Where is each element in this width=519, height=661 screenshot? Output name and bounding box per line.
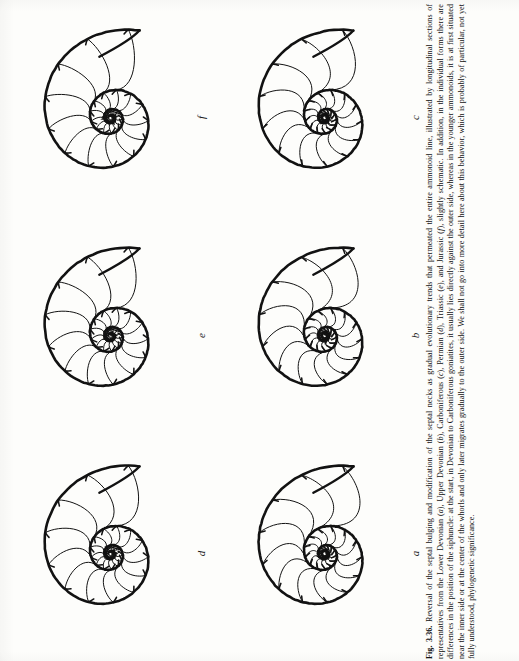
septal-neck — [317, 563, 318, 569]
septal-neck — [327, 346, 332, 349]
caption-fragment: ), Triassic ( — [436, 289, 445, 328]
septum — [88, 257, 111, 311]
septal-neck — [125, 94, 131, 96]
figure-panel-f: f — [8, 8, 223, 225]
septum — [104, 529, 112, 546]
figure-panel-grid: fcebda — [0, 4, 430, 657]
septum — [117, 248, 137, 308]
figure-caption-text: Fig. 3.36. Reversal of the septal bulgin… — [425, 4, 478, 659]
septum — [87, 569, 104, 602]
septum — [331, 530, 345, 548]
septal-neck — [317, 127, 318, 133]
septum — [314, 351, 327, 384]
septum — [318, 93, 327, 110]
panel-label-e: e — [196, 329, 207, 343]
caption-fragment: b — [436, 436, 445, 440]
septal-neck — [58, 500, 59, 506]
septal-neck — [111, 110, 117, 112]
septal-neck — [125, 312, 131, 314]
septum — [117, 94, 130, 111]
panel-label-b: b — [410, 329, 421, 343]
figure-panel-b: b — [222, 226, 437, 443]
septal-neck — [115, 549, 121, 550]
septum — [58, 64, 95, 101]
septal-neck — [272, 282, 278, 283]
septum — [259, 306, 304, 330]
septal-neck — [308, 319, 314, 320]
ammonite-section-diagram — [8, 444, 223, 661]
septal-neck — [317, 345, 318, 351]
caption-fragment: c — [436, 372, 445, 376]
septum — [123, 555, 148, 563]
figure-panel-a: a — [222, 444, 437, 661]
septum — [49, 115, 92, 128]
septal-neck — [302, 596, 303, 602]
septal-neck — [136, 539, 142, 540]
septum — [337, 337, 362, 347]
ammonite-section-diagram — [8, 8, 223, 225]
septal-neck — [143, 570, 145, 576]
septum — [272, 282, 313, 319]
aperture-lip — [313, 31, 353, 57]
septum — [65, 562, 96, 589]
septum — [259, 90, 304, 111]
septum — [45, 528, 90, 547]
septal-neck — [327, 564, 332, 567]
caption-fragment: ), and Jurassic ( — [436, 231, 445, 285]
septum — [327, 348, 348, 374]
septum — [117, 30, 135, 90]
caption-fragment: ), Upper Devonian ( — [436, 441, 445, 510]
aperture-lip — [99, 467, 139, 493]
ammonite-section-diagram — [222, 226, 437, 443]
septum — [337, 555, 362, 566]
septum — [121, 561, 145, 576]
ammonite-section-diagram — [222, 8, 437, 225]
septum — [45, 311, 90, 329]
septum — [327, 90, 335, 109]
septal-neck — [143, 134, 145, 140]
septum — [279, 124, 310, 153]
caption-fragment: Fig. 3.36. — [425, 626, 434, 659]
septum — [116, 130, 134, 156]
septum — [45, 94, 90, 111]
septum — [328, 130, 347, 156]
septum — [331, 94, 345, 112]
ammonite-section-diagram — [8, 226, 223, 443]
septum — [123, 337, 148, 344]
septal-neck — [332, 332, 335, 337]
septum — [117, 466, 139, 526]
caption-fragment: a — [436, 509, 445, 513]
septum — [331, 312, 345, 330]
figure-panel-e: e — [8, 226, 223, 443]
aperture-lip — [313, 249, 353, 275]
aperture-lip — [99, 249, 139, 275]
septum — [122, 343, 146, 358]
septum — [298, 568, 318, 602]
septal-neck — [302, 378, 303, 384]
septum — [65, 127, 96, 153]
septum — [121, 322, 142, 334]
septum — [279, 341, 310, 371]
figure-panel-d: d — [8, 444, 223, 661]
septum — [272, 499, 313, 537]
septum — [326, 566, 348, 592]
septum — [316, 133, 327, 166]
septum — [302, 39, 331, 93]
septum — [121, 540, 142, 553]
septal-neck — [94, 319, 95, 325]
septum — [104, 311, 112, 328]
septum — [88, 133, 104, 166]
septal-neck — [310, 123, 312, 129]
panel-label-c: c — [410, 111, 421, 125]
septum — [263, 111, 306, 129]
caption-fragment: ), Permian ( — [436, 332, 445, 373]
septal-neck — [332, 114, 335, 119]
septum — [121, 104, 142, 115]
panel-label-d: d — [196, 547, 207, 561]
septum — [122, 125, 146, 140]
septal-neck — [342, 154, 347, 157]
septal-neck — [125, 530, 131, 532]
septum — [263, 543, 306, 564]
septal-neck — [302, 160, 303, 166]
septum — [103, 569, 113, 602]
